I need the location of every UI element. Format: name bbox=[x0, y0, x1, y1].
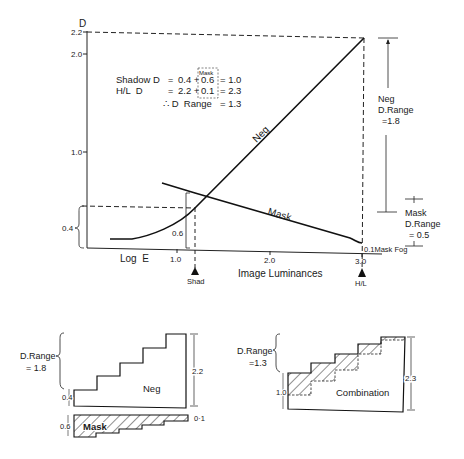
combination-hatch-4 bbox=[358, 344, 381, 354]
left-brace-value: 0.4 bbox=[62, 224, 74, 233]
neg-curve bbox=[110, 38, 364, 239]
hl-d-neg: 2.2 + bbox=[178, 85, 200, 96]
inner-brace bbox=[186, 193, 190, 248]
neg-range-label-1: Neg bbox=[378, 94, 395, 104]
y-tick-1-0: 1.0 bbox=[71, 148, 83, 157]
neg-base-value: 0.4 bbox=[62, 393, 72, 402]
shadow-d-result: = 1.0 bbox=[220, 74, 241, 85]
equation-block: Mask Shadow D = 0.4 + 0.6 = 1.0 H/L D = … bbox=[116, 68, 241, 109]
shadow-d-neg: 0.4 + bbox=[178, 74, 200, 85]
x-tick-2-0: 2.0 bbox=[264, 256, 276, 265]
top-dashed-line bbox=[87, 32, 364, 38]
mask-range-label-1: Mask bbox=[405, 208, 427, 218]
mask-fog-label: 0.1Mask Fog bbox=[364, 245, 407, 254]
hl-d-equals: = bbox=[168, 86, 173, 96]
neg-total-value: 2.2 bbox=[192, 367, 204, 376]
highlight-marker-icon bbox=[358, 268, 366, 277]
mask-fog-value: 0·1 bbox=[194, 414, 205, 423]
characteristic-curve-graph: D 2.2 2.0 1.0 1.0 2.0 3.0 Log E Image Lu… bbox=[62, 18, 441, 288]
neg-range-value: = 1.8 bbox=[26, 363, 46, 373]
hl-d-mask: 0.1 bbox=[201, 85, 214, 96]
d-range-result: = 1.3 bbox=[220, 98, 241, 109]
d-range-label: ∴ D Range bbox=[163, 98, 212, 109]
shadow-d-equals: = bbox=[168, 75, 173, 85]
shadow-label: Shad bbox=[187, 277, 205, 286]
combination-base-value: 1.0 bbox=[276, 388, 286, 397]
neg-step-wedge bbox=[74, 334, 186, 408]
mask-curve-label: Mask bbox=[267, 206, 294, 223]
hl-d-label: H/L D bbox=[116, 85, 143, 96]
shadow-dashed-h bbox=[82, 206, 195, 208]
contrast-masking-diagram: D 2.2 2.0 1.0 1.0 2.0 3.0 Log E Image Lu… bbox=[0, 0, 464, 459]
x-axis-label: Image Luminances bbox=[238, 268, 323, 279]
y-tick-2-2: 2.2 bbox=[71, 28, 83, 37]
combination-total-value: 2.3 bbox=[405, 374, 417, 383]
neg-curve-label: Neg bbox=[250, 124, 271, 145]
neg-range-label-2: D.Range bbox=[378, 105, 414, 115]
neg-range-label-3: =1.8 bbox=[382, 116, 400, 126]
left-brace bbox=[75, 206, 84, 248]
combination-hatch-3 bbox=[335, 354, 358, 370]
combination-hatch-1 bbox=[288, 373, 311, 395]
combination-hatch-2 bbox=[311, 363, 335, 381]
neg-range-brace bbox=[56, 333, 64, 389]
shadow-d-mask: 0.6 bbox=[201, 74, 214, 85]
neg-wedge-label: Neg bbox=[143, 383, 160, 394]
hl-d-result: = 2.3 bbox=[220, 85, 241, 96]
inner-brace-value: 0.6 bbox=[172, 229, 184, 238]
hl-dashed-line bbox=[362, 38, 364, 278]
mask-range-label-2: D.Range bbox=[405, 219, 441, 229]
combination-range-brace bbox=[273, 334, 280, 372]
neg-mask-step-diagram: Neg 2.2 0.4 D.Range = 1.8 Mask 0.6 0·1 bbox=[20, 333, 205, 437]
x-tick-1-0: 1.0 bbox=[170, 255, 182, 264]
mask-height-value: 0.6 bbox=[60, 422, 70, 431]
highlight-label: H/L bbox=[355, 279, 367, 288]
combination-range-value: =1.3 bbox=[249, 358, 267, 368]
x-tick-3-0: 3.0 bbox=[355, 257, 367, 266]
combination-step-diagram: Combination 2.3 1.0 D.Range =1.3 bbox=[237, 334, 417, 412]
log-e-label: Log E bbox=[120, 253, 149, 264]
shadow-d-label: Shadow D bbox=[116, 74, 160, 85]
combination-range-label: D.Range bbox=[237, 346, 273, 356]
y-tick-2-0: 2.0 bbox=[71, 50, 83, 59]
mask-curve bbox=[162, 183, 362, 243]
combination-label: Combination bbox=[336, 387, 389, 398]
shadow-marker-icon bbox=[191, 267, 199, 275]
mask-range-label-3: = 0.5 bbox=[409, 230, 429, 240]
mask-wedge-label: Mask bbox=[83, 421, 107, 432]
neg-range-label: D.Range bbox=[20, 351, 56, 361]
